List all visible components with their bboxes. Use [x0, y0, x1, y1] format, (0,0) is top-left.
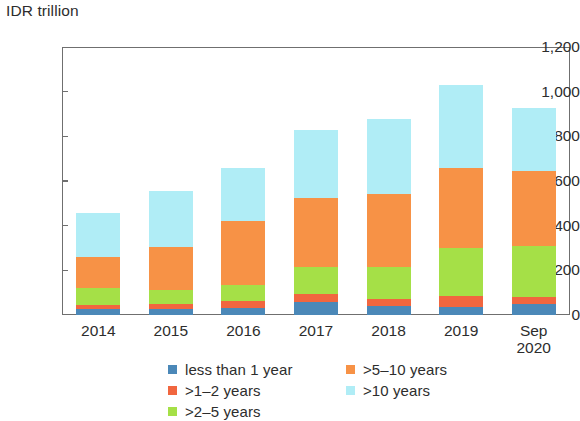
bar-segment[interactable] — [294, 302, 338, 315]
bar-segment[interactable] — [512, 246, 556, 297]
bar-segment[interactable] — [221, 301, 265, 309]
bar-segment[interactable] — [149, 247, 193, 291]
bar-segment[interactable] — [367, 306, 411, 315]
bar-segment[interactable] — [367, 267, 411, 299]
bars-layer — [62, 47, 570, 315]
bar-segment[interactable] — [76, 288, 120, 305]
bar-segment[interactable] — [439, 307, 483, 315]
legend-label: >2–5 years — [185, 403, 261, 420]
legend-item[interactable]: less than 1 year — [168, 360, 293, 379]
bar-segment[interactable] — [512, 171, 556, 246]
y-axis-title: IDR trillion — [6, 2, 79, 20]
legend-label: >10 years — [363, 382, 430, 399]
legend-item[interactable]: >10 years — [346, 381, 447, 400]
bar-stack[interactable] — [221, 168, 265, 315]
bar-segment[interactable] — [294, 267, 338, 294]
bar-stack[interactable] — [149, 191, 193, 315]
bar-segment[interactable] — [367, 299, 411, 306]
bar-segment[interactable] — [76, 213, 120, 257]
bar-segment[interactable] — [149, 309, 193, 315]
stacked-bar-chart: IDR trillion 02004006008001,0001,200 201… — [0, 0, 580, 421]
legend-column-2: >5–10 years>10 years — [346, 360, 447, 402]
bar-stack[interactable] — [294, 130, 338, 315]
legend-label: less than 1 year — [185, 361, 293, 378]
bar-segment[interactable] — [294, 294, 338, 302]
bar-segment[interactable] — [221, 285, 265, 301]
bar-segment[interactable] — [512, 108, 556, 171]
bar-segment[interactable] — [294, 198, 338, 267]
bar-segment[interactable] — [512, 304, 556, 315]
x-tick-label: Sep 2020 — [491, 322, 577, 356]
bar-segment[interactable] — [439, 168, 483, 248]
legend-label: >5–10 years — [363, 361, 447, 378]
bar-stack[interactable] — [439, 85, 483, 315]
legend-swatch-icon — [168, 365, 177, 374]
bar-segment[interactable] — [76, 309, 120, 315]
legend-swatch-icon — [346, 365, 355, 374]
bar-segment[interactable] — [76, 257, 120, 288]
legend-swatch-icon — [168, 407, 177, 416]
chart-legend: less than 1 year>1–2 years>2–5 years >5–… — [168, 360, 498, 418]
bar-segment[interactable] — [512, 297, 556, 304]
legend-item[interactable]: >2–5 years — [168, 402, 293, 421]
bar-segment[interactable] — [294, 130, 338, 198]
bar-segment[interactable] — [439, 85, 483, 168]
legend-swatch-icon — [168, 386, 177, 395]
bar-segment[interactable] — [221, 308, 265, 315]
bar-segment[interactable] — [439, 296, 483, 307]
bar-segment[interactable] — [149, 191, 193, 247]
bar-stack[interactable] — [367, 119, 411, 315]
legend-item[interactable]: >5–10 years — [346, 360, 447, 379]
bar-segment[interactable] — [149, 290, 193, 303]
bar-segment[interactable] — [367, 119, 411, 195]
bar-segment[interactable] — [367, 194, 411, 267]
bar-segment[interactable] — [221, 221, 265, 285]
legend-label: >1–2 years — [185, 382, 261, 399]
legend-column-1: less than 1 year>1–2 years>2–5 years — [168, 360, 293, 421]
bar-stack[interactable] — [76, 213, 120, 315]
legend-item[interactable]: >1–2 years — [168, 381, 293, 400]
bar-stack[interactable] — [512, 108, 556, 315]
bar-segment[interactable] — [221, 168, 265, 222]
legend-swatch-icon — [346, 386, 355, 395]
bar-segment[interactable] — [439, 248, 483, 296]
